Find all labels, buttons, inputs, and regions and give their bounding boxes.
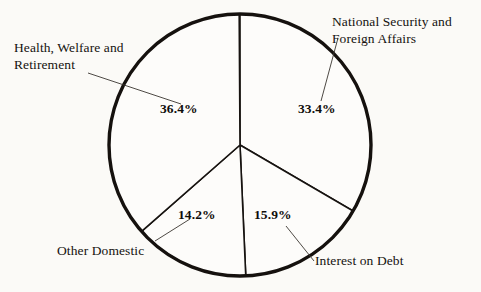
pie-value-interest-on-debt: 15.9% <box>254 207 292 223</box>
pie-label-other-domestic: Other Domestic <box>57 243 144 260</box>
pie-label-national-security: National Security and Foreign Affairs <box>332 14 452 47</box>
pie-label-national-security-line2: Foreign Affairs <box>332 31 452 48</box>
pie-label-national-security-line1: National Security and <box>332 14 452 31</box>
pie-label-interest-on-debt: Interest on Debt <box>315 253 404 270</box>
pie-value-health-welfare-retirement: 36.4% <box>160 101 198 117</box>
pie-value-national-security: 33.4% <box>298 101 336 117</box>
pie-label-health-welfare-retirement-line1: Health, Welfare and <box>14 40 124 57</box>
pie-value-other-domestic: 14.2% <box>178 207 216 223</box>
pie-label-health-welfare-retirement-line2: Retirement <box>14 57 124 74</box>
pie-chart-figure: Health, Welfare and Retirement National … <box>0 0 481 292</box>
pie-label-health-welfare-retirement: Health, Welfare and Retirement <box>14 40 124 73</box>
